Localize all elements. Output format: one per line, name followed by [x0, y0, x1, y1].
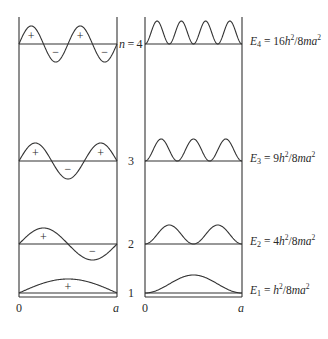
plus-sign: +	[77, 30, 84, 42]
axis-label-zero-left: 0	[16, 302, 22, 314]
axis-label-a-right: a	[238, 302, 244, 314]
plus-sign: +	[28, 30, 35, 42]
probability-density-panel	[145, 17, 242, 297]
energy-label-n1: E1 = h2/8ma2	[250, 283, 310, 298]
density-curve-n1	[145, 275, 242, 293]
axis-label-a-left: a	[113, 302, 119, 314]
quantum-number-label-n3: 3	[128, 155, 134, 167]
minus-sign: −	[89, 245, 96, 257]
density-curve-n4	[145, 21, 242, 44]
quantum-number-label-n2: 2	[128, 238, 134, 250]
axis-label-zero-right: 0	[142, 302, 148, 314]
energy-label-n2: E2 = 4h2/8ma2	[250, 234, 315, 249]
density-curve-n3	[145, 139, 242, 161]
plus-sign: +	[97, 147, 104, 159]
density-curve-n2	[145, 225, 242, 244]
minus-sign: −	[65, 163, 72, 175]
plus-sign: +	[40, 231, 47, 243]
plus-sign: +	[32, 147, 39, 159]
plus-sign: +	[65, 281, 72, 293]
energy-label-n3: E3 = 9h2/8ma2	[250, 151, 315, 166]
quantum-number-label-n1: 1	[128, 287, 134, 299]
quantum-number-label-n4: n = 4	[119, 38, 143, 50]
minus-sign: −	[52, 46, 59, 58]
energy-label-n4: E4 = 16h2/8ma2	[250, 34, 321, 49]
minus-sign: −	[101, 46, 108, 58]
